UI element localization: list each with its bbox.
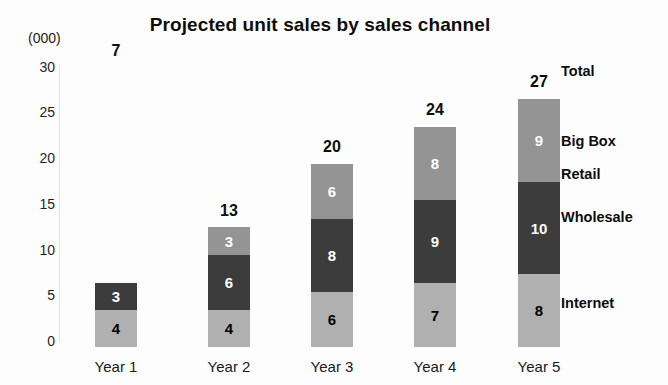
callout-total: Total bbox=[561, 63, 595, 79]
segment-wholesale-year1[interactable]: 3 bbox=[95, 283, 137, 310]
total-label-year3: 20 bbox=[311, 138, 353, 156]
segment-wholesale-year4[interactable]: 9 bbox=[414, 200, 456, 283]
segment-internet-year5[interactable]: 8 bbox=[518, 274, 560, 347]
segment-wholesale-year5[interactable]: 10 bbox=[518, 182, 560, 274]
chart-container: Projected unit sales by sales channel (0… bbox=[0, 0, 668, 385]
x-label-year5: Year 5 bbox=[496, 358, 582, 375]
total-label-year2: 13 bbox=[208, 202, 250, 220]
y-tick-25: 25 bbox=[21, 104, 55, 120]
bar-stack-year3[interactable]: 6 8 6 bbox=[311, 164, 353, 347]
bar-group-year2[interactable]: 13 3 6 4 Year 2 bbox=[208, 68, 250, 347]
y-axis: 30 25 20 15 10 5 0 bbox=[15, 0, 55, 385]
segment-bigbox-year3[interactable]: 6 bbox=[311, 164, 353, 219]
x-label-year2: Year 2 bbox=[186, 358, 272, 375]
y-tick-10: 10 bbox=[21, 242, 55, 258]
x-label-year4: Year 4 bbox=[392, 358, 478, 375]
bar-group-year5[interactable]: 27 9 10 8 Year 5 bbox=[518, 68, 560, 347]
segment-internet-year1[interactable]: 4 bbox=[95, 310, 137, 347]
bar-stack-year4[interactable]: 8 9 7 bbox=[414, 127, 456, 347]
segment-bigbox-year2[interactable]: 3 bbox=[208, 227, 250, 255]
y-tick-15: 15 bbox=[21, 196, 55, 212]
callout-internet: Internet bbox=[561, 295, 614, 311]
bar-group-year4[interactable]: 24 8 9 7 Year 4 bbox=[414, 68, 456, 347]
y-tick-5: 5 bbox=[21, 287, 55, 303]
y-tick-0: 0 bbox=[21, 333, 55, 349]
segment-internet-year4[interactable]: 7 bbox=[414, 283, 456, 347]
callout-big-box-line2: Retail bbox=[561, 166, 601, 182]
chart-title: Projected unit sales by sales channel bbox=[0, 14, 640, 36]
segment-internet-year3[interactable]: 6 bbox=[311, 292, 353, 347]
bar-group-year1[interactable]: 7 3 4 Year 1 bbox=[95, 68, 137, 347]
segment-internet-year2[interactable]: 4 bbox=[208, 310, 250, 347]
callout-big-box-line1: Big Box bbox=[561, 133, 616, 149]
callout-big-box-retail: Big Box Retail bbox=[561, 117, 616, 182]
total-label-year5: 27 bbox=[518, 73, 560, 91]
segment-bigbox-year5[interactable]: 9 bbox=[518, 99, 560, 182]
callout-wholesale: Wholesale bbox=[561, 209, 633, 225]
y-tick-20: 20 bbox=[21, 150, 55, 166]
total-label-year1: 7 bbox=[95, 42, 137, 60]
y-tick-30: 30 bbox=[21, 59, 55, 75]
bar-stack-year2[interactable]: 3 6 4 bbox=[208, 227, 250, 347]
total-label-year4: 24 bbox=[414, 101, 456, 119]
segment-wholesale-year3[interactable]: 8 bbox=[311, 219, 353, 292]
bar-group-year3[interactable]: 20 6 8 6 Year 3 bbox=[311, 68, 353, 347]
segment-bigbox-year4[interactable]: 8 bbox=[414, 127, 456, 200]
segment-wholesale-year2[interactable]: 6 bbox=[208, 255, 250, 310]
bar-stack-year1[interactable]: 3 4 bbox=[95, 283, 137, 347]
x-label-year3: Year 3 bbox=[289, 358, 375, 375]
bar-stack-year5[interactable]: 9 10 8 bbox=[518, 99, 560, 347]
x-label-year1: Year 1 bbox=[73, 358, 159, 375]
